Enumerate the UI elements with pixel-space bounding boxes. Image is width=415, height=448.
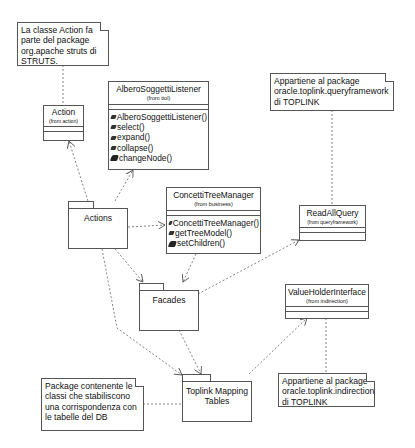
package-name: Actions — [84, 213, 112, 223]
operation[interactable]: ConcettiTreeManager() — [169, 218, 259, 228]
protected-method-icon — [110, 155, 119, 161]
package-name-line1: Toplink Mapping — [183, 386, 251, 396]
operation[interactable]: setChildren() — [169, 238, 259, 248]
dep-actions-facades — [115, 249, 143, 282]
class-name: Action — [44, 107, 83, 117]
class-read-all-query[interactable]: ReadAllQuery (from queryframework) — [299, 205, 366, 241]
operation[interactable]: expand() — [111, 132, 207, 142]
operations-compartment: ConcettiTreeManager() getTreeModel() set… — [167, 216, 260, 251]
class-origin: (from queryframework) — [300, 218, 365, 226]
class-albero-soggetti-listener[interactable]: AlberoSoggettiListener (from tiol) Alber… — [108, 81, 209, 170]
package-name: Facades — [153, 295, 186, 305]
package-toplink-mapping-tables[interactable]: Toplink Mapping Tables — [182, 374, 252, 422]
note-mapping: Package contenente le classi che stabili… — [41, 378, 144, 431]
dep-concetti-facades — [183, 254, 196, 282]
note-fold-icon — [385, 73, 394, 82]
dep-facades-toplink — [179, 330, 201, 374]
operation[interactable]: select() — [111, 122, 207, 132]
dep-toplink-valueholder — [249, 318, 307, 374]
class-concetti-tree-manager[interactable]: ConcettiTreeManager (from business) Conc… — [166, 187, 261, 254]
package-actions[interactable]: Actions — [68, 201, 128, 249]
class-name: ConcettiTreeManager — [168, 190, 259, 200]
dep-actions-albero — [115, 170, 133, 201]
attributes-compartment — [286, 307, 368, 312]
dep-actions-concetti — [128, 225, 165, 227]
note-fold-icon — [100, 22, 109, 31]
class-origin: (from business) — [168, 200, 259, 208]
public-method-icon — [110, 146, 116, 150]
operations-compartment: AlberoSoggettiListener() select() expand… — [109, 110, 208, 165]
note-queryframework: Appartiene al package oracle.toplink.que… — [270, 73, 394, 111]
class-name: ValueHolderInterface — [286, 287, 368, 297]
dep-actions-action — [69, 141, 88, 201]
note-fold-icon — [135, 378, 144, 387]
package-facades[interactable]: Facades — [139, 283, 199, 331]
protected-method-icon — [168, 241, 177, 247]
attributes-compartment — [44, 127, 83, 132]
attributes-compartment — [300, 228, 365, 233]
package-name-line2: Tables — [183, 396, 251, 406]
class-origin: (from action) — [44, 117, 83, 125]
operation[interactable]: collapse() — [111, 143, 207, 153]
public-method-icon — [110, 125, 116, 129]
operation[interactable]: changeNode() — [111, 153, 207, 163]
class-name: ReadAllQuery — [300, 208, 365, 218]
class-action[interactable]: Action (from action) — [43, 105, 84, 141]
public-method-icon — [110, 136, 116, 140]
note-action: La classe Action fa parte del package or… — [17, 22, 109, 66]
class-value-holder-interface[interactable]: ValueHolderInterface (from indirection) — [285, 284, 369, 319]
class-origin: (from indirection) — [286, 297, 368, 305]
note-indirection: Appartiene al package oracle.toplink.ind… — [278, 373, 375, 407]
public-method-icon — [110, 115, 116, 119]
note-fold-icon — [366, 373, 375, 382]
operation[interactable]: getTreeModel() — [169, 228, 259, 238]
class-origin: (from tiol) — [110, 94, 207, 102]
class-name: AlberoSoggettiListener — [110, 84, 207, 94]
public-method-icon — [168, 231, 174, 235]
operation[interactable]: AlberoSoggettiListener() — [111, 112, 207, 122]
